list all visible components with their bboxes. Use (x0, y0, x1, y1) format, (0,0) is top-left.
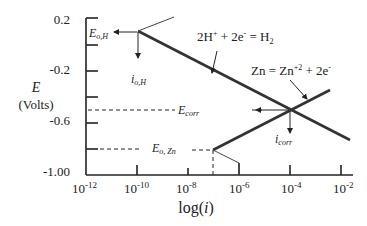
hydrogen-line (138, 31, 350, 140)
ytick-label: -1.00 (43, 164, 70, 179)
y-axis-label: E (31, 80, 41, 95)
hydrogen-oxidation-line (138, 17, 174, 31)
y-axis-unit: (Volts) (18, 97, 53, 112)
svg-text:10-4: 10-4 (281, 180, 302, 196)
zinc-reaction-label: Zn = Zn+2 + 2e- (251, 63, 331, 78)
svg-text:10-6: 10-6 (229, 180, 250, 196)
svg-text:10-10: 10-10 (124, 180, 149, 196)
zinc-reduction-line (213, 150, 239, 175)
ytick-label: 0.2 (54, 12, 70, 27)
xtick-labels: 10-12 10-10 10-8 10-6 10-4 10-2 (72, 180, 354, 196)
dashed-guides (88, 110, 262, 175)
svg-text:10-2: 10-2 (333, 180, 354, 196)
svg-text:10-8: 10-8 (176, 180, 197, 196)
eoh-label: Eo,H (88, 26, 109, 41)
eozn-label: Eo, Zn (151, 141, 176, 156)
evans-diagram: 0.2 -0.2 -0.6 -1.00 E (Volts) 10-12 10-1… (0, 0, 367, 226)
ytick-label: -0.2 (49, 62, 70, 77)
icorr-label: icorr (275, 132, 293, 147)
svg-text:10-12: 10-12 (72, 180, 97, 196)
hydrogen-reaction-label: 2H+ + 2e- = H2 (197, 29, 273, 46)
ytick-label: -0.6 (49, 113, 70, 128)
ioh-label: io,H (131, 72, 147, 87)
x-axis-label: log(i) (178, 199, 214, 217)
ecorr-label: Ecorr (177, 103, 200, 118)
